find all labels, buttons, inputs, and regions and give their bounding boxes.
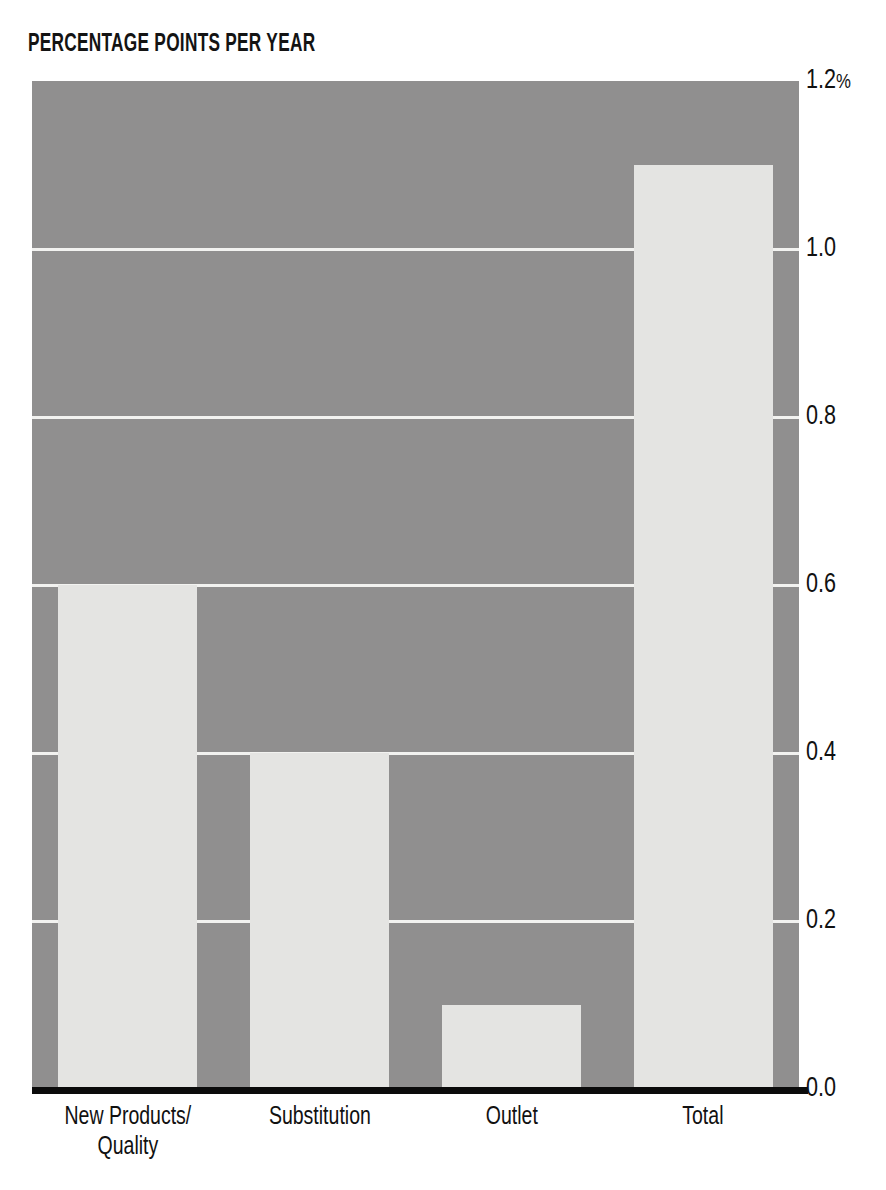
category-label-line: New Products/	[53, 1100, 203, 1130]
y-axis-tick-label: 0.8	[806, 400, 836, 431]
y-axis-tick-label: 0.6	[806, 568, 836, 599]
bars-group	[32, 81, 799, 1089]
x-axis-category-label: New Products/Quality	[32, 1100, 224, 1160]
category-label-line: Substitution	[245, 1100, 395, 1130]
units-header: PERCENTAGE POINTS PER YEAR	[28, 28, 315, 57]
y-tick-value: 0.8	[806, 400, 836, 430]
y-tick-value: 0.2	[806, 904, 836, 934]
x-axis-baseline	[32, 1087, 808, 1094]
clipped-title-strip	[0, 0, 886, 13]
bar[interactable]	[634, 165, 773, 1089]
bar[interactable]	[442, 1005, 581, 1089]
percent-sign: %	[836, 69, 851, 92]
y-axis-tick-label: 1.2%	[806, 64, 851, 95]
y-axis-tick-labels: 1.2%1.00.80.60.40.20.0	[806, 0, 886, 1190]
y-axis-tick-label: 0.0	[806, 1072, 836, 1103]
y-axis-tick-label: 0.4	[806, 736, 836, 767]
y-tick-value: 0.0	[806, 1072, 836, 1102]
category-label-line: Total	[628, 1100, 778, 1130]
y-tick-value: 0.4	[806, 736, 836, 766]
bar[interactable]	[250, 753, 389, 1089]
x-axis-category-label: Total	[607, 1100, 799, 1130]
category-label-line: Quality	[53, 1130, 203, 1160]
chart-plot-area	[32, 81, 799, 1089]
category-label-line: Outlet	[437, 1100, 587, 1130]
y-axis-tick-label: 0.2	[806, 904, 836, 935]
y-tick-value: 0.6	[806, 568, 836, 598]
y-tick-value: 1.0	[806, 232, 836, 262]
x-axis-category-label: Outlet	[416, 1100, 608, 1130]
x-axis-category-label: Substitution	[224, 1100, 416, 1130]
y-tick-value: 1.2	[806, 64, 836, 94]
bar[interactable]	[58, 585, 197, 1089]
x-axis-category-labels: New Products/QualitySubstitutionOutletTo…	[32, 1100, 799, 1186]
y-axis-tick-label: 1.0	[806, 232, 836, 263]
